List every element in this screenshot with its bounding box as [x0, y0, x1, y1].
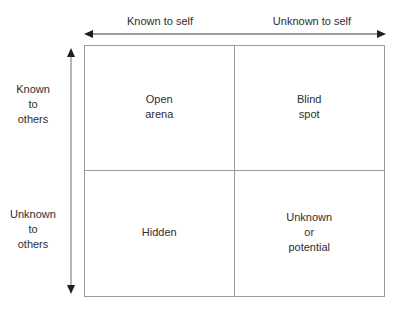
quadrant-open-arena-line-1: Open: [145, 92, 173, 107]
johari-window-diagram: Known to self Unknown to self Known to o…: [0, 0, 402, 315]
quadrant-hidden-label: Hidden: [142, 225, 177, 242]
horizontal-axis-arrow: [84, 27, 386, 41]
axis-label-unknown-to-others-line-1: Unknown: [2, 207, 64, 222]
quadrant-open-arena-line-2: arena: [145, 107, 173, 122]
axis-label-unknown-to-others-line-2: to: [2, 222, 64, 237]
axis-label-known-to-others-line-3: others: [2, 112, 64, 127]
quadrant-blind-spot-line-1: Blind: [297, 92, 321, 107]
quadrant-hidden-line-1: Hidden: [142, 225, 177, 240]
quadrant-open-arena-label: Open arena: [145, 92, 173, 124]
axis-label-unknown-to-others-line-3: others: [2, 237, 64, 252]
axis-label-known-to-others: Known to others: [2, 82, 64, 127]
quadrant-blind-spot-line-2: spot: [297, 107, 321, 122]
vertical-axis-arrow: [64, 48, 78, 294]
quadrant-grid: Open arena Blind spot Hidden Unknown or …: [84, 45, 385, 297]
quadrant-unknown-or-potential-line-1: Unknown: [286, 210, 332, 225]
quadrant-blind-spot: Blind spot: [235, 46, 385, 171]
axis-label-unknown-to-others: Unknown to others: [2, 207, 64, 252]
axis-label-known-to-others-line-2: to: [2, 97, 64, 112]
quadrant-hidden: Hidden: [85, 171, 235, 296]
quadrant-unknown-or-potential: Unknown or potential: [235, 171, 385, 296]
axis-label-known-to-others-line-1: Known: [2, 82, 64, 97]
quadrant-unknown-or-potential-line-2: or: [286, 225, 332, 240]
quadrant-unknown-or-potential-line-3: potential: [286, 240, 332, 255]
quadrant-blind-spot-label: Blind spot: [297, 92, 321, 124]
quadrant-unknown-or-potential-label: Unknown or potential: [286, 210, 332, 257]
quadrant-open-arena: Open arena: [85, 46, 235, 171]
